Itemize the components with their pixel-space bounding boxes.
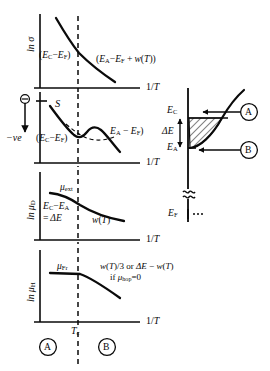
panel4-activation-label-line1: w(T)/3 or ΔE − w(T) <box>100 262 173 271</box>
panel4-y-axis-label: ln μH <box>26 282 37 302</box>
panel2-x-axis-label: 1/T <box>146 157 159 167</box>
panel4-x-axis-label: 1/T <box>146 316 159 326</box>
panel4-activation-label-line2: if μhop=0 <box>110 273 141 282</box>
panel1-y-axis-label: ln σ <box>26 37 36 52</box>
panel3-extended-mobility-label: μext <box>60 182 73 193</box>
panel2-region-a-slope-label: (EC−EF) <box>36 133 68 144</box>
axis-break-icon <box>183 191 195 193</box>
axis-break-icon-second <box>183 196 195 198</box>
panel2-negative-label: −ve <box>6 133 22 143</box>
acceptor-band-label: EA <box>167 142 178 153</box>
panel1-x-axis-label: 1/T <box>146 82 159 92</box>
region-marker-a-label: A <box>44 342 51 352</box>
region-marker-b-label: B <box>103 342 109 352</box>
panel1-region-b-activation-label: (EA−EF + w(T)) <box>96 54 156 65</box>
conduction-band-label: EC <box>167 105 177 116</box>
panel3-hopping-energy-label: w(T) <box>92 215 110 225</box>
panel3-band-gap-label-line2: = ΔE <box>43 213 62 223</box>
panel3-band-gap-label-line1: EC−EA <box>43 201 69 212</box>
panel3-x-axis-label: 1/T <box>146 234 159 244</box>
panel2-region-b-slope-label: EA − EF) <box>110 126 144 137</box>
panel4-friedman-mobility-label: μFr <box>57 261 68 272</box>
fermi-level-label: EF <box>168 208 178 219</box>
callout-a-label: A <box>245 107 252 117</box>
panel3-y-axis-label: ln μD <box>26 200 37 220</box>
localized-states-hatched-region <box>189 118 222 148</box>
panel2-curve-label: S <box>55 99 60 110</box>
callout-b-label: B <box>245 145 251 155</box>
band-gap-delta-label: ΔE <box>162 126 174 136</box>
panel1-region-a-activation-label: (EC−EF) <box>39 50 71 61</box>
transition-temperature-label: Tc <box>71 326 80 337</box>
